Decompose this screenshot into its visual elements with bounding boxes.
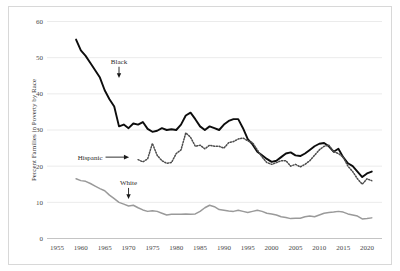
x-tick-label: 1990 bbox=[217, 244, 232, 252]
x-tick-label: 2010 bbox=[312, 244, 327, 252]
x-tick-label: 2015 bbox=[336, 244, 351, 252]
x-tick-label: 1985 bbox=[193, 244, 208, 252]
x-tick-label: 1960 bbox=[74, 244, 89, 252]
annotation-label-hispanic: Hispanic bbox=[78, 154, 103, 162]
x-tick-label: 2005 bbox=[288, 244, 303, 252]
poverty-by-race-chart: 0102030405060 19551960196519701975198019… bbox=[0, 0, 400, 271]
annotation-arrow-head bbox=[124, 155, 129, 160]
y-tick-label: 50 bbox=[36, 54, 44, 62]
x-tick-label: 2000 bbox=[265, 244, 280, 252]
y-tick-label: 0 bbox=[40, 235, 44, 243]
chart-canvas: 0102030405060 19551960196519701975198019… bbox=[0, 0, 400, 271]
y-tick-label: 10 bbox=[36, 199, 44, 207]
annotation-arrow-head bbox=[126, 194, 130, 199]
series-line-hispanic bbox=[138, 133, 372, 184]
x-tick-labels: 1955196019651970197519801985199019952000… bbox=[50, 244, 375, 252]
annotation-label-white: White bbox=[120, 179, 137, 187]
x-tick-label: 1955 bbox=[50, 244, 65, 252]
x-tick-label: 1995 bbox=[241, 244, 256, 252]
annotation-label-black: Black bbox=[111, 58, 128, 66]
x-tick-label: 2020 bbox=[360, 244, 375, 252]
series-lines bbox=[76, 40, 372, 219]
annotation-arrow-head bbox=[117, 73, 121, 78]
x-tick-label: 1970 bbox=[122, 244, 137, 252]
x-tick-label: 1980 bbox=[169, 244, 184, 252]
x-tick-label: 1965 bbox=[98, 244, 113, 252]
y-axis-title: Percent Families in Poverty by Race bbox=[30, 79, 38, 181]
y-tick-label: 60 bbox=[36, 18, 44, 26]
x-tick-label: 1975 bbox=[145, 244, 160, 252]
gridlines bbox=[47, 22, 382, 203]
